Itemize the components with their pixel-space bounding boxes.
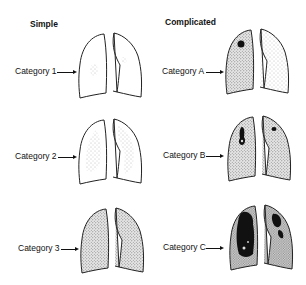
lungs-category-b	[227, 115, 293, 183]
label-category-1: Category 1	[15, 66, 57, 76]
column-title-simple: Simple	[30, 19, 58, 29]
arrow-category-1	[57, 72, 75, 73]
arrow-category-3	[61, 249, 77, 250]
label-category-a: Category A	[162, 66, 204, 76]
lungs-category-2	[78, 118, 144, 186]
lungs-category-1	[78, 32, 144, 100]
arrow-category-a	[206, 72, 222, 73]
label-category-3: Category 3	[18, 243, 60, 253]
label-category-c: Category C	[163, 242, 206, 252]
label-category-2: Category 2	[15, 151, 57, 161]
lungs-category-3	[80, 207, 146, 275]
column-title-complicated: Complicated	[165, 17, 216, 27]
arrow-category-b	[206, 156, 222, 157]
arrow-category-c	[206, 248, 222, 249]
lungs-category-a	[225, 28, 291, 96]
label-category-b: Category B	[163, 150, 206, 160]
arrow-category-2	[58, 157, 75, 158]
lungs-category-c	[229, 204, 295, 272]
